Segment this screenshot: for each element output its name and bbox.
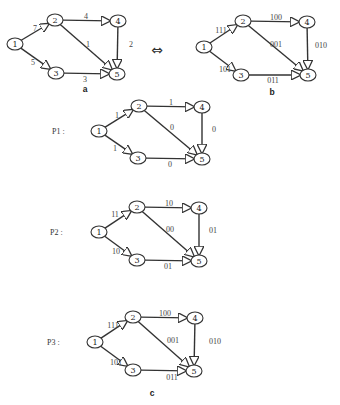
diagram-canvas: 75413212345a11110110000101101012345b1110… [0, 0, 340, 405]
node-1: 1 [91, 125, 107, 137]
node-2: 2 [125, 311, 141, 323]
edge-2-5 [138, 322, 189, 367]
edge-2-5 [142, 212, 194, 257]
edge-weight-label: 2 [129, 40, 133, 49]
node-1: 1 [91, 226, 107, 238]
row-label: P3 : [47, 338, 60, 347]
node-label: 2 [134, 203, 139, 212]
edge-1-2 [105, 110, 133, 127]
node-5: 5 [191, 255, 207, 267]
edge-weight-label: 01 [164, 262, 172, 271]
node-1: 1 [196, 41, 212, 53]
node-4: 4 [194, 101, 210, 113]
node-5: 5 [300, 69, 316, 81]
node-5: 5 [186, 365, 202, 377]
edge-weight-label: 5 [31, 58, 35, 67]
edge-weight-label: 01 [209, 226, 217, 235]
node-5: 5 [109, 68, 125, 80]
edge-4-5 [117, 27, 118, 68]
node-label: 2 [52, 16, 57, 25]
edge-weight-label: 3 [83, 75, 87, 84]
row-label: P2 : [50, 228, 63, 237]
edge-weight-label: 4 [84, 12, 88, 21]
edge-weight-label: 011 [166, 373, 178, 382]
edge-weight-label: 001 [270, 40, 282, 49]
node-4: 4 [191, 202, 207, 214]
edge-weight-label: 00 [166, 225, 174, 234]
node-2: 2 [235, 15, 251, 27]
edge-2-5 [144, 110, 196, 154]
node-label: 3 [53, 69, 58, 78]
edge-weight-label: 1 [86, 40, 90, 49]
edge-weight-label: 10 [112, 247, 120, 256]
row-label: P1 : [52, 127, 65, 136]
edge-weight-label: 111 [215, 26, 226, 35]
graph-a: 75413212345a [7, 12, 133, 95]
edge-weight-label: 101 [219, 65, 231, 74]
node-label: 3 [238, 71, 243, 80]
edge-weight-label: 010 [209, 337, 221, 346]
edge-weight-label: 0 [212, 125, 216, 134]
edge-4-5 [194, 324, 195, 365]
edge-1-3 [21, 48, 50, 69]
node-label: 4 [115, 17, 120, 26]
edge-weight-label: 101 [110, 358, 122, 367]
node-label: 4 [199, 103, 204, 112]
node-4: 4 [299, 16, 315, 28]
node-3: 3 [125, 364, 141, 376]
subfigure-caption: a [83, 84, 88, 94]
node-label: 1 [96, 127, 101, 136]
node-2: 2 [47, 14, 63, 26]
node-label: 5 [191, 367, 196, 376]
graph-P2: 11101000010112345P2 : [50, 199, 217, 271]
node-label: 4 [196, 204, 201, 213]
node-label: 4 [304, 18, 309, 27]
node-label: 5 [196, 257, 201, 266]
edge-3-5 [141, 370, 186, 371]
node-3: 3 [129, 254, 145, 266]
node-label: 5 [199, 155, 204, 164]
graph-P1: 11100012345P1 : [52, 98, 216, 169]
node-3: 3 [130, 152, 146, 164]
node-2: 2 [129, 201, 145, 213]
node-4: 4 [187, 312, 203, 324]
node-label: 1 [12, 40, 17, 49]
node-label: 1 [96, 228, 101, 237]
edge-weight-label: 010 [315, 41, 327, 50]
node-label: 3 [134, 256, 139, 265]
equivalence-arrow-icon: ⇔ [151, 42, 163, 58]
node-3: 3 [233, 69, 249, 81]
edge-weight-label: 0 [170, 123, 174, 132]
edge-weight-label: 11 [111, 210, 119, 219]
node-label: 3 [130, 366, 135, 375]
node-label: 3 [135, 154, 140, 163]
edge-weight-label: 1 [115, 111, 119, 120]
edge-weight-label: 1 [169, 98, 173, 107]
graph-b: 11110110000101101012345b [196, 13, 327, 98]
edge-weight-label: 0 [168, 160, 172, 169]
node-5: 5 [194, 153, 210, 165]
node-1: 1 [7, 38, 23, 50]
node-label: 5 [114, 70, 119, 79]
node-label: 5 [305, 71, 310, 80]
edge-weight-label: 10 [165, 199, 173, 208]
node-label: 1 [201, 43, 206, 52]
graph-P3: 11110110000101101012345P3 :c [47, 309, 221, 399]
edge-weight-label: 7 [33, 24, 37, 33]
node-2: 2 [131, 100, 147, 112]
node-label: 2 [136, 102, 141, 111]
node-label: 4 [192, 314, 197, 323]
graphs-layer: 75413212345a11110110000101101012345b1110… [7, 12, 327, 399]
edge-weight-label: 100 [270, 13, 282, 22]
edge-weight-label: 111 [107, 321, 118, 330]
subfigure-caption: b [269, 87, 274, 97]
edge-weight-label: 001 [167, 336, 179, 345]
edge-1-3 [105, 135, 132, 154]
edge-4-5 [307, 28, 308, 69]
node-label: 1 [92, 338, 97, 347]
edge-weight-label: 1 [113, 144, 117, 153]
node-label: 2 [240, 17, 245, 26]
edge-weight-label: 100 [159, 309, 171, 318]
subfigure-caption: c [150, 388, 155, 398]
edge-weight-label: 011 [267, 76, 279, 85]
